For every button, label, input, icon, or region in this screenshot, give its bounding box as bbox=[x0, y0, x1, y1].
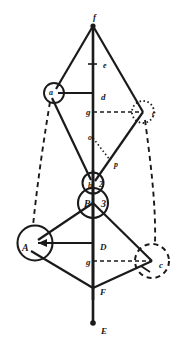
label-p: p bbox=[114, 161, 118, 169]
label-g-lower: g bbox=[86, 258, 91, 267]
segment-c-upper-b bbox=[95, 112, 143, 181]
segment-A-F bbox=[31, 251, 93, 288]
label-o: o bbox=[88, 134, 92, 142]
diagram-canvas bbox=[0, 0, 189, 353]
segment-f-a bbox=[56, 26, 93, 89]
label-2: 2 bbox=[99, 181, 103, 189]
label-3: 3 bbox=[101, 199, 106, 209]
label-b: b bbox=[88, 182, 92, 190]
label-d: d bbox=[101, 93, 106, 102]
segment-o-p-dotted bbox=[93, 138, 110, 160]
label-a: a bbox=[49, 89, 53, 97]
coupler-curve-right-dashed bbox=[145, 120, 155, 244]
point-e-dot bbox=[90, 320, 96, 326]
label-c-lower: c bbox=[159, 261, 163, 270]
figure-diagram: f e a d g c o p b 2 B 3 A D g c F E bbox=[0, 0, 189, 353]
label-g-upper: g bbox=[86, 108, 91, 117]
coupler-curve-left-dashed bbox=[33, 102, 50, 226]
label-c-upper: c bbox=[152, 110, 156, 118]
label-A: A bbox=[22, 243, 29, 253]
label-D: D bbox=[100, 243, 107, 252]
label-F: F bbox=[100, 288, 106, 297]
segment-B-c-lower bbox=[93, 203, 152, 261]
label-f: f bbox=[93, 13, 96, 22]
label-e: e bbox=[103, 62, 107, 70]
label-B: B bbox=[84, 199, 91, 209]
label-E: E bbox=[101, 327, 107, 336]
tick-c-lower bbox=[141, 266, 150, 272]
